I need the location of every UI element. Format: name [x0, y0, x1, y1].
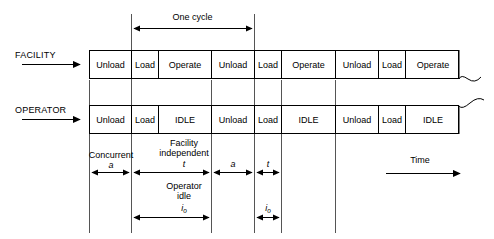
operator-cell-unload-3[interactable]: Unload	[336, 106, 379, 133]
operator-cell-idle-1[interactable]: IDLE	[159, 106, 212, 133]
facility-row-label: FACILITY	[15, 50, 56, 60]
operator-cell-unload-1[interactable]: Unload	[90, 106, 132, 133]
concurrent-symbol: a	[82, 160, 140, 170]
operator-timeline: Unload Load IDLE Unload Load IDLE Unload…	[89, 105, 459, 134]
operator-idle-symbol-subscript: o	[183, 207, 187, 214]
facility-independent-symbol: t	[149, 159, 219, 169]
operator-cell-load-2[interactable]: Load	[255, 106, 282, 133]
facility-cell-unload-3[interactable]: Unload	[336, 51, 379, 78]
second-concurrent-symbol: a	[214, 159, 252, 169]
facility-independent-label-line2: independent	[149, 148, 219, 158]
facility-independent-label-line1: Facility	[149, 138, 219, 148]
operator-break-symbol	[459, 99, 484, 134]
operator-cell-unload-2[interactable]: Unload	[212, 106, 255, 133]
facility-cell-operate-2[interactable]: Operate	[282, 51, 336, 78]
operator-idle-symbol: io	[149, 203, 219, 213]
time-axis-label: Time	[400, 155, 440, 165]
facility-cell-operate-1[interactable]: Operate	[159, 51, 212, 78]
facility-break-symbol	[459, 50, 481, 81]
diagram-canvas: FACILITY OPERATOR Unload Load Operate Un…	[0, 0, 494, 239]
facility-cell-unload-2[interactable]: Unload	[212, 51, 255, 78]
second-idle-symbol-subscript: o	[267, 207, 271, 214]
operator-cell-idle-2[interactable]: IDLE	[282, 106, 336, 133]
operator-cell-load-3[interactable]: Load	[379, 106, 406, 133]
operator-idle-label-line1: Operator	[149, 181, 219, 191]
second-facility-symbol: t	[256, 159, 280, 169]
second-idle-symbol: io	[256, 203, 280, 213]
facility-cell-load-1[interactable]: Load	[132, 51, 159, 78]
operator-row-label: OPERATOR	[15, 105, 66, 115]
facility-cell-load-3[interactable]: Load	[379, 51, 406, 78]
facility-cell-unload-1[interactable]: Unload	[90, 51, 132, 78]
concurrent-label: Concurrent	[82, 150, 140, 160]
facility-cell-load-2[interactable]: Load	[255, 51, 282, 78]
operator-idle-label-line2: idle	[149, 191, 219, 201]
operator-cell-idle-3[interactable]: IDLE	[406, 106, 460, 133]
operator-cell-load-1[interactable]: Load	[132, 106, 159, 133]
one-cycle-label: One cycle	[131, 12, 254, 22]
facility-timeline: Unload Load Operate Unload Load Operate …	[89, 50, 459, 79]
facility-cell-operate-3[interactable]: Operate	[406, 51, 460, 78]
